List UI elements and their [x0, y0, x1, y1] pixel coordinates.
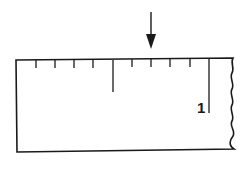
unit-label: 1: [197, 99, 205, 116]
ruler-diagram: 1: [0, 0, 247, 188]
arrow-down-icon: [146, 12, 156, 49]
